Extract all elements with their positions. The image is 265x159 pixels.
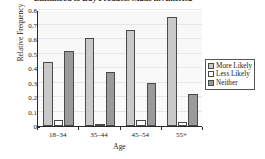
legend-item: More Likely	[208, 62, 252, 71]
bar-less	[95, 124, 105, 126]
bar-more	[126, 30, 136, 126]
bar-group	[162, 11, 203, 126]
y-tick-label: 0.8	[21, 8, 37, 15]
x-tick-label: 35–44	[90, 131, 108, 139]
chart-title: Likelihood to Buy Products Made in Ameri…	[18, 0, 208, 3]
bar-less	[178, 122, 188, 126]
legend-item: Neither	[208, 79, 252, 88]
y-tick-label: 0.2	[21, 95, 37, 102]
legend-swatch-icon	[208, 71, 214, 77]
bar-more	[167, 17, 177, 126]
bar-neither	[188, 94, 198, 126]
y-tick-label: 0.5	[21, 51, 37, 58]
bar-more	[85, 38, 95, 126]
legend-label: Less Likely	[216, 70, 250, 78]
bar-neither	[106, 72, 116, 126]
x-tick-mark	[37, 127, 38, 130]
bar-chart-figure: Likelihood to Buy Products Made in Ameri…	[0, 0, 265, 159]
bar-less	[136, 120, 146, 126]
bar-group	[79, 11, 120, 126]
legend-label: More Likely	[216, 62, 252, 70]
bars-layer	[38, 11, 202, 126]
x-tick-mark	[120, 127, 121, 130]
chart-legend: More LikelyLess LikelyNeither	[205, 59, 255, 90]
y-tick-label: 0.1	[21, 109, 37, 116]
legend-item: Less Likely	[208, 70, 252, 79]
x-tick-mark	[78, 127, 79, 130]
y-tick-label: 0.3	[21, 80, 37, 87]
gridline	[38, 9, 202, 10]
x-tick-label: 18–34	[49, 131, 67, 139]
bar-more	[43, 62, 53, 126]
x-tick-mark	[202, 127, 203, 130]
legend-label: Neither	[216, 79, 238, 87]
y-tick-label: 0.6	[21, 37, 37, 44]
bar-less	[54, 120, 64, 126]
x-tick-mark	[161, 127, 162, 130]
bar-group	[121, 11, 162, 126]
y-tick-label: 0	[21, 124, 37, 131]
legend-swatch-icon	[208, 63, 214, 69]
bar-neither	[64, 51, 74, 126]
x-tick-label: 45–54	[131, 131, 149, 139]
x-tick-label: 55+	[176, 131, 187, 139]
bar-group	[38, 11, 79, 126]
y-tick-label: 0.7	[21, 22, 37, 29]
x-axis-title: Age	[37, 142, 202, 151]
y-tick-label: 0.4	[21, 66, 37, 73]
bar-neither	[147, 83, 157, 127]
plot-area	[37, 11, 202, 127]
y-axis-ticks: 00.10.20.30.40.50.60.70.8	[18, 11, 37, 127]
legend-swatch-icon	[208, 80, 214, 86]
